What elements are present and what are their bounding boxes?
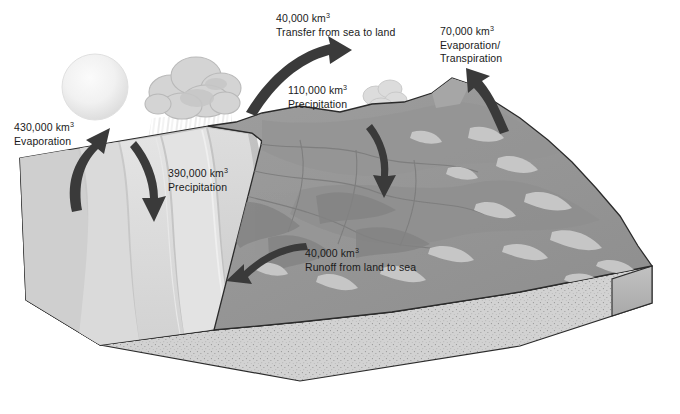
- label-caption: Evaporation/: [440, 39, 502, 53]
- label-value: 110,000 km: [288, 84, 343, 96]
- label-exponent: 3: [490, 24, 494, 33]
- label-caption: Precipitation: [168, 181, 228, 195]
- label-exponent: 3: [343, 83, 347, 92]
- label-exponent: 3: [326, 11, 330, 20]
- label-precipitation-sea: 390,000 km3 Precipitation: [168, 167, 228, 194]
- label-caption: Evaporation: [14, 135, 74, 149]
- label-value: 40,000 km: [276, 12, 326, 24]
- label-exponent: 3: [224, 166, 228, 175]
- label-evaporation-sea: 430,000 km3 Evaporation: [14, 121, 74, 148]
- label-value: 430,000 km: [14, 121, 70, 133]
- water-cycle-diagram: 430,000 km3 Evaporation 40,000 km3 Trans…: [0, 0, 680, 414]
- label-value: 40,000 km: [305, 247, 355, 259]
- label-value: 70,000 km: [440, 25, 490, 37]
- label-caption: Precipitation: [288, 98, 347, 112]
- label-transfer-sea-to-land: 40,000 km3 Transfer from sea to land: [276, 12, 395, 39]
- label-runoff-land-to-sea: 40,000 km3 Runoff from land to sea: [305, 247, 416, 274]
- label-caption-line2: Transpiration: [440, 52, 502, 66]
- label-precipitation-land: 110,000 km3 Precipitation: [288, 84, 347, 111]
- cloud-icon: [145, 57, 241, 119]
- label-evaporation-transpiration: 70,000 km3 Evaporation/ Transpiration: [440, 25, 502, 66]
- diagram-artwork: [0, 0, 680, 414]
- label-exponent: 3: [70, 120, 74, 129]
- label-exponent: 3: [355, 246, 359, 255]
- label-caption: Runoff from land to sea: [305, 261, 416, 275]
- label-caption: Transfer from sea to land: [276, 26, 395, 40]
- sun-icon: [62, 54, 128, 120]
- label-value: 390,000 km: [168, 167, 224, 179]
